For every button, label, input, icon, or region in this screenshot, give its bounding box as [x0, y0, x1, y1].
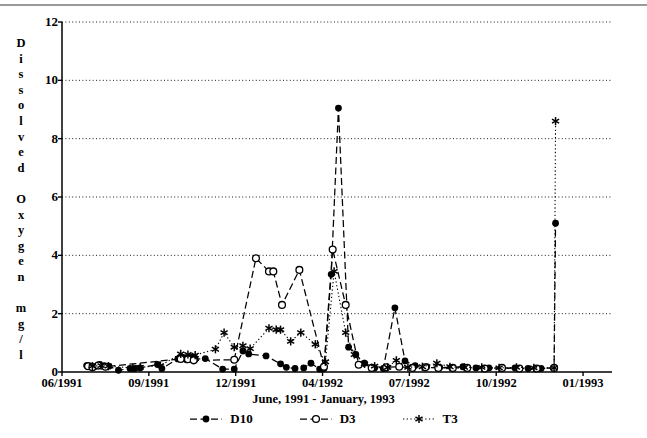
data-point-filled-circle [308, 360, 315, 367]
chart-legend: D10D3T3 [0, 412, 647, 426]
data-point-filled-circle [263, 353, 270, 360]
x-axis-tick-label: 10/1992 [476, 376, 517, 391]
series-line-D3 [88, 250, 554, 369]
data-point-filled-circle [300, 365, 307, 372]
plot-canvas [0, 0, 647, 438]
data-point-open-circle [329, 246, 336, 253]
data-point-filled-circle [552, 220, 559, 227]
data-point-filled-circle [231, 366, 238, 373]
series-D3 [85, 246, 558, 372]
data-point-asterisk [239, 342, 246, 350]
legend-item-D10[interactable]: D10 [189, 412, 252, 426]
legend-label: D10 [230, 412, 252, 426]
x-axis-tick-label: 04/1992 [302, 376, 343, 391]
data-point-open-circle [342, 302, 349, 309]
data-point-filled-circle [335, 105, 342, 112]
data-point-filled-circle [391, 304, 398, 311]
legend-item-D3[interactable]: D3 [299, 412, 356, 426]
x-axis-tick-labels: 06/199109/199112/199104/199207/199210/19… [0, 376, 647, 392]
x-axis-tick-label: 01/1993 [563, 376, 604, 391]
data-point-open-circle [296, 267, 303, 274]
legend-marker-D10 [189, 412, 223, 426]
x-axis-tick-label: 09/1991 [128, 376, 169, 391]
data-point-open-circle [435, 365, 442, 372]
series-line-D10 [87, 108, 556, 370]
x-axis-tick-label: 07/1992 [389, 376, 430, 391]
data-point-open-circle [312, 416, 319, 423]
data-point-asterisk [415, 415, 422, 423]
data-point-filled-circle [219, 366, 226, 373]
data-point-filled-circle [277, 360, 284, 367]
legend-marker-T3 [402, 412, 436, 426]
x-axis-title: June, 1991 - January, 1993 [0, 392, 647, 407]
data-point-asterisk [273, 326, 280, 334]
dissolved-oxygen-chart: DissolvedOxygenmg/l 024681012 06/199109/… [0, 0, 647, 438]
data-point-asterisk [552, 117, 559, 125]
series-D10 [83, 105, 559, 374]
x-axis-tick-label: 06/1991 [42, 376, 83, 391]
data-point-filled-circle [203, 416, 210, 423]
series-line-T3 [92, 121, 555, 368]
data-point-open-circle [321, 363, 328, 370]
data-point-open-circle [279, 302, 286, 309]
data-point-asterisk [221, 329, 228, 337]
legend-label: T3 [443, 412, 458, 426]
data-point-filled-circle [115, 367, 122, 374]
legend-item-T3[interactable]: T3 [402, 412, 458, 426]
data-point-open-circle [253, 255, 260, 262]
data-point-filled-circle [245, 351, 252, 358]
x-axis-tick-label: 12/1991 [215, 376, 256, 391]
data-point-filled-circle [202, 355, 209, 362]
data-point-open-circle [190, 357, 197, 364]
data-point-open-circle [270, 268, 277, 275]
data-point-asterisk [277, 326, 284, 334]
data-series-layer [83, 105, 559, 374]
legend-label: D3 [340, 412, 356, 426]
data-point-filled-circle [292, 365, 299, 372]
legend-marker-D3 [299, 412, 333, 426]
data-point-asterisk [212, 345, 219, 353]
data-point-open-circle [231, 356, 238, 363]
data-point-filled-circle [283, 364, 290, 371]
data-point-asterisk [287, 337, 294, 345]
series-T3 [89, 117, 559, 372]
